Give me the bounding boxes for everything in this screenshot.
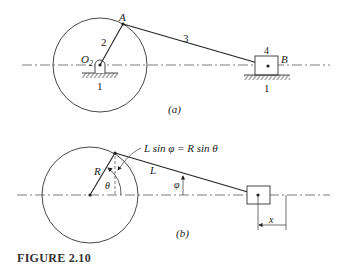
part-b-geometry: L sin φ = R sin θ R θ L φ x (b) <box>17 142 330 243</box>
coupler-L <box>115 153 258 195</box>
label-B: B <box>281 53 288 65</box>
label-O2: O2 <box>81 53 93 68</box>
label-x: x <box>268 214 274 225</box>
figure-caption: FIGURE 2.10 <box>17 251 91 266</box>
ground-hatch-left <box>82 73 118 78</box>
label-ground-1-left: 1 <box>97 80 103 92</box>
label-link-2: 2 <box>101 36 107 48</box>
label-R: R <box>93 165 101 177</box>
label-theta: θ <box>105 180 110 191</box>
part-b-label: (b) <box>176 227 189 240</box>
label-link-4: 4 <box>264 45 269 56</box>
label-L: L <box>149 164 156 176</box>
ground-hatch-right <box>244 75 290 80</box>
label-phi: φ <box>174 179 180 190</box>
equation-label: L sin φ = R sin θ <box>143 142 218 154</box>
theta-arc <box>108 168 121 195</box>
coupler-link-3 <box>123 24 268 66</box>
slider-crank-diagram: A 2 O2 1 3 4 B 1 (a) L sin φ = R sin θ <box>0 0 351 272</box>
part-a-label: (a) <box>168 103 181 116</box>
label-A: A <box>118 11 126 23</box>
part-a-mechanism: A 2 O2 1 3 4 B 1 (a) <box>22 11 330 116</box>
label-ground-1-right: 1 <box>264 82 270 94</box>
label-link-3: 3 <box>183 32 189 44</box>
